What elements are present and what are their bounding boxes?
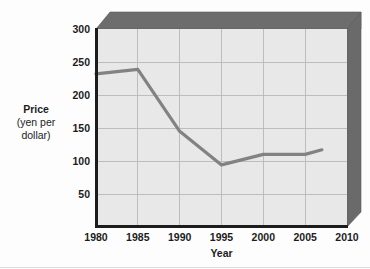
line-chart-canvas: 300 250 200 150 100 50 1980 1985 1990 19… [0, 0, 370, 269]
wall-top-3d [96, 12, 361, 29]
y-axis-title-main: Price [23, 103, 49, 115]
y-axis-tick-labels: 300 250 200 150 100 50 [72, 23, 90, 200]
x-axis-title: Year [210, 247, 232, 259]
y-axis-title-line2: (yen per [17, 116, 56, 128]
y-tick-label-250: 250 [72, 56, 90, 68]
y-axis-title: Price (yen per dollar) [17, 103, 56, 141]
x-tick-label-1985: 1985 [126, 231, 150, 243]
x-tick-label-1980: 1980 [84, 231, 108, 243]
x-tick-label-2005: 2005 [294, 231, 318, 243]
y-tick-label-100: 100 [72, 155, 90, 167]
y-tick-label-200: 200 [72, 89, 90, 101]
y-tick-label-150: 150 [72, 122, 90, 134]
y-tick-label-50: 50 [78, 188, 90, 200]
x-tick-label-2000: 2000 [252, 231, 276, 243]
x-tick-label-1995: 1995 [210, 231, 234, 243]
y-axis-title-line3: dollar) [21, 129, 50, 141]
x-tick-label-1990: 1990 [168, 231, 192, 243]
x-axis-tick-labels: 1980 1985 1990 1995 2000 2005 2010 [84, 231, 359, 243]
bottom-divider [0, 267, 370, 268]
chart-figure: 300 250 200 150 100 50 1980 1985 1990 19… [0, 0, 370, 269]
x-tick-label-2010: 2010 [335, 231, 359, 243]
wall-right-3d [347, 12, 361, 227]
y-tick-label-300: 300 [72, 23, 90, 35]
